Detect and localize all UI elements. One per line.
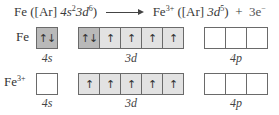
reactant-symbol: Fe	[14, 4, 27, 19]
orbital-box: ↑	[162, 27, 184, 49]
fe3plus-4p-orbitals	[204, 73, 268, 95]
orbital-box: ↑	[162, 73, 184, 95]
sublabel-4p: 4p	[204, 96, 268, 111]
row-label-fe: Fe	[16, 29, 29, 45]
sublabel-3d: 3d	[78, 51, 184, 66]
plus-sign: +	[235, 4, 242, 19]
fe-4s-orbital: ↑↓	[36, 27, 58, 49]
reactant-4s: 4s	[60, 4, 72, 19]
product-charge: 3+	[166, 4, 175, 13]
orbital-box	[246, 27, 268, 49]
orbital-box: ↑	[120, 73, 142, 95]
product-config-open: ([Ar]	[177, 4, 207, 19]
orbital-box: ↑↓	[36, 27, 58, 49]
orbital-box	[246, 73, 268, 95]
orbital-box: ↑	[99, 27, 121, 49]
orbital-box: ↑	[141, 27, 163, 49]
orbital-box	[204, 73, 226, 95]
product-3d: 3d	[207, 4, 220, 19]
fe-3d-orbitals: ↑↓ ↑ ↑ ↑ ↑	[78, 27, 184, 49]
sublabel-3d: 3d	[78, 96, 184, 111]
orbital-box	[225, 27, 247, 49]
orbital-box: ↑	[78, 73, 100, 95]
reactant-3d: 3d	[76, 4, 89, 19]
sublabel-4s: 4s	[36, 51, 58, 66]
fe3plus-3d-orbitals: ↑ ↑ ↑ ↑ ↑	[78, 73, 184, 95]
sublabel-4p: 4p	[204, 51, 268, 66]
reaction-arrow-icon	[106, 8, 144, 18]
reactant-config-open: ([Ar]	[30, 4, 60, 19]
orbital-box: ↑	[141, 73, 163, 95]
orbital-box: ↑	[120, 27, 142, 49]
orbital-box	[36, 73, 58, 95]
orbital-box	[225, 73, 247, 95]
orbital-box	[204, 27, 226, 49]
sublabel-4s: 4s	[36, 96, 58, 111]
product-symbol: Fe	[153, 4, 166, 19]
electrons: 3e−	[249, 4, 266, 19]
fe-4p-orbitals	[204, 27, 268, 49]
fe3plus-4s-orbital	[36, 73, 58, 95]
orbital-box: ↑	[99, 73, 121, 95]
row-label-fe3plus: Fe3+	[4, 74, 26, 90]
ionization-equation: Fe ([Ar] 4s23d6) Fe3+ ([Ar] 3d5) + 3e−	[14, 4, 266, 20]
orbital-box: ↑↓	[78, 27, 100, 49]
